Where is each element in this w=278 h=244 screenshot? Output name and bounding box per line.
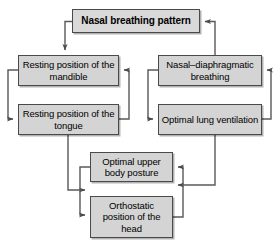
node-label: Nasal–diaphragmatic breathing [161, 59, 259, 82]
node-label: Nasal breathing pattern [75, 15, 197, 27]
edge-tongue-to-head [68, 135, 85, 190]
node-orthostatic-position-head[interactable]: Orthostatic position of the head [90, 196, 173, 238]
edge-mandible-to-tongue [8, 70, 18, 119]
edge-pattern-to-mandible [65, 22, 72, 51]
node-nasal-breathing-pattern[interactable]: Nasal breathing pattern [72, 9, 200, 33]
node-label: Resting position of the mandible [21, 59, 116, 82]
node-resting-position-tongue[interactable]: Resting position of the tongue [18, 104, 119, 135]
node-nasal-diaphragmatic-breathing[interactable]: Nasal–diaphragmatic breathing [158, 55, 262, 86]
edge-ventilation-to-breathing [262, 70, 271, 119]
flowchart-diagram: Nasal breathing pattern Resting position… [0, 0, 278, 244]
edge-ventilation-to-head [178, 135, 215, 185]
node-label: Optimal upper body posture [93, 156, 170, 179]
edge-posture-to-head [80, 167, 90, 215]
edge-breathing-to-ventilation [148, 70, 158, 119]
node-label: Orthostatic position of the head [93, 200, 170, 235]
node-label: Optimal lung ventilation [161, 114, 259, 126]
node-optimal-upper-body-posture[interactable]: Optimal upper body posture [90, 152, 173, 182]
node-optimal-lung-ventilation[interactable]: Optimal lung ventilation [158, 104, 262, 135]
edge-breathing-to-pattern [205, 22, 215, 56]
node-label: Resting position of the tongue [21, 108, 116, 131]
edge-tongue-to-mandible [119, 70, 129, 119]
edge-head-to-posture [173, 167, 183, 217]
node-resting-position-mandible[interactable]: Resting position of the mandible [18, 55, 119, 86]
